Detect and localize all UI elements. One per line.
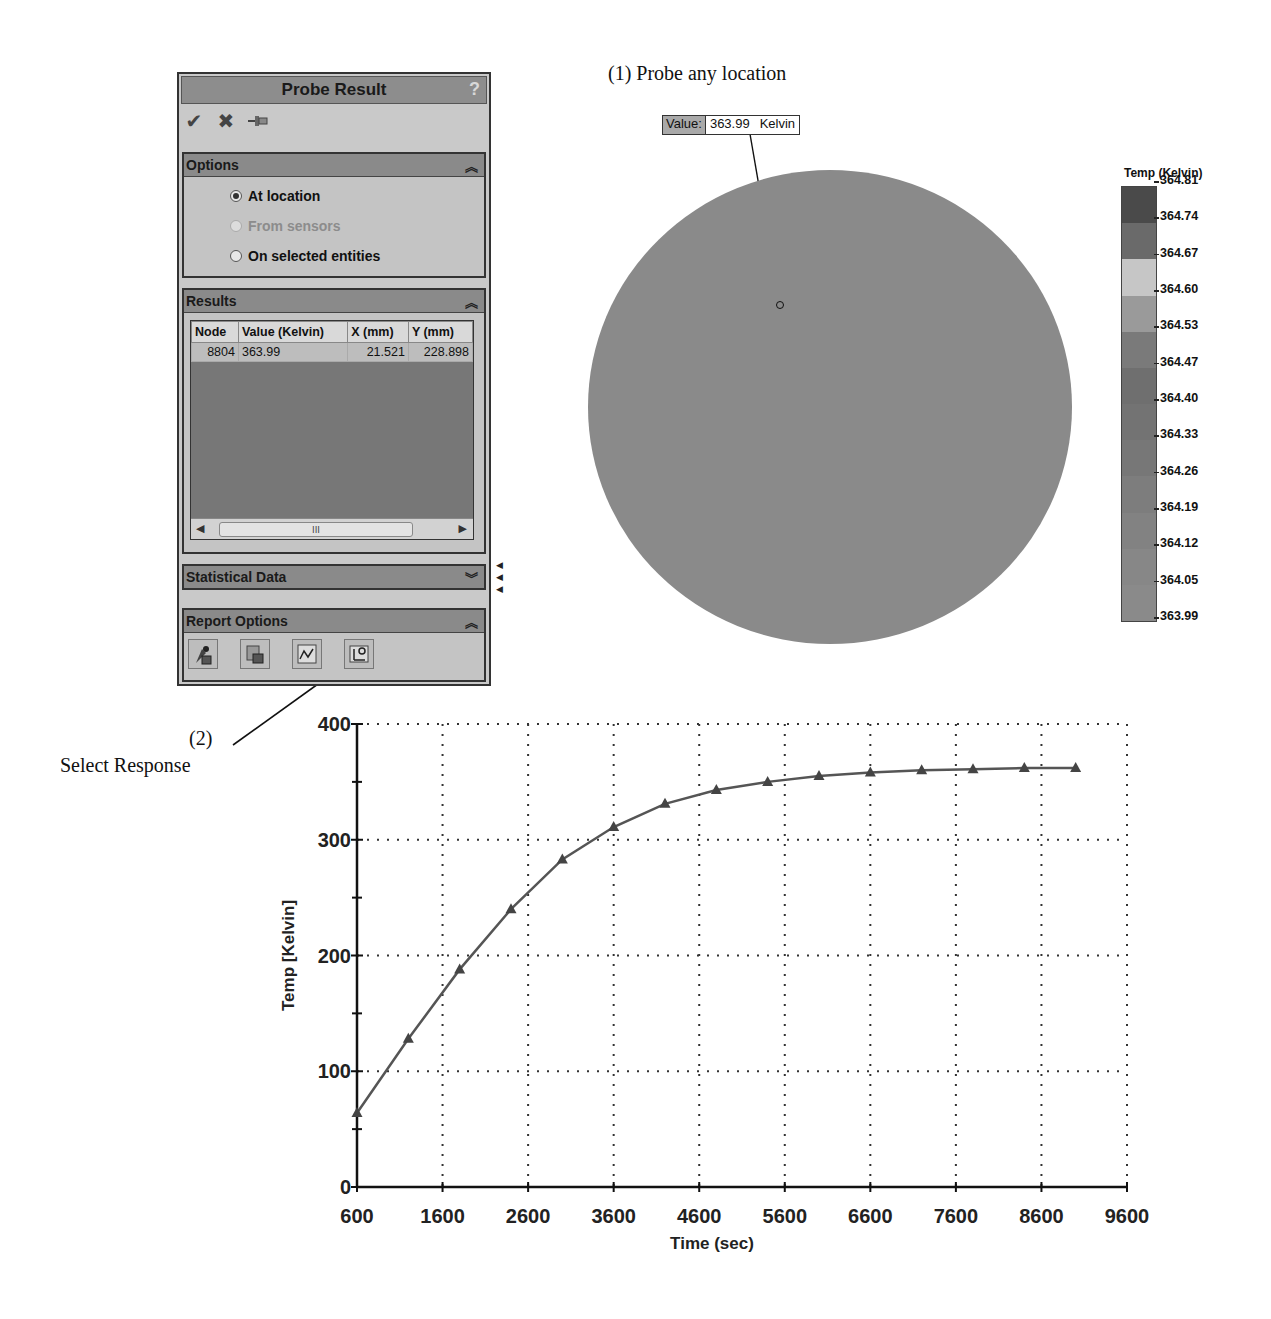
- y-tick-label: 200: [318, 945, 351, 967]
- y-tick-label: 100: [318, 1060, 351, 1082]
- series-line: [357, 768, 1076, 1113]
- x-tick-label: 3600: [591, 1205, 636, 1227]
- temperature-response-chart: 0100200300400600160026003600460056006600…: [0, 0, 1271, 1319]
- y-tick-label: 400: [318, 713, 351, 735]
- x-tick-label: 9600: [1105, 1205, 1150, 1227]
- x-tick-label: 7600: [934, 1205, 979, 1227]
- x-tick-label: 4600: [677, 1205, 722, 1227]
- y-tick-label: 300: [318, 829, 351, 851]
- x-tick-label: 2600: [506, 1205, 551, 1227]
- x-tick-label: 8600: [1019, 1205, 1064, 1227]
- x-axis-label: Time (sec): [670, 1234, 754, 1253]
- x-tick-label: 600: [340, 1205, 373, 1227]
- x-tick-label: 1600: [420, 1205, 465, 1227]
- y-tick-label: 0: [340, 1176, 351, 1198]
- x-tick-label: 5600: [763, 1205, 808, 1227]
- x-tick-label: 6600: [848, 1205, 893, 1227]
- y-axis-label: Temp [Kelvin]: [279, 900, 298, 1011]
